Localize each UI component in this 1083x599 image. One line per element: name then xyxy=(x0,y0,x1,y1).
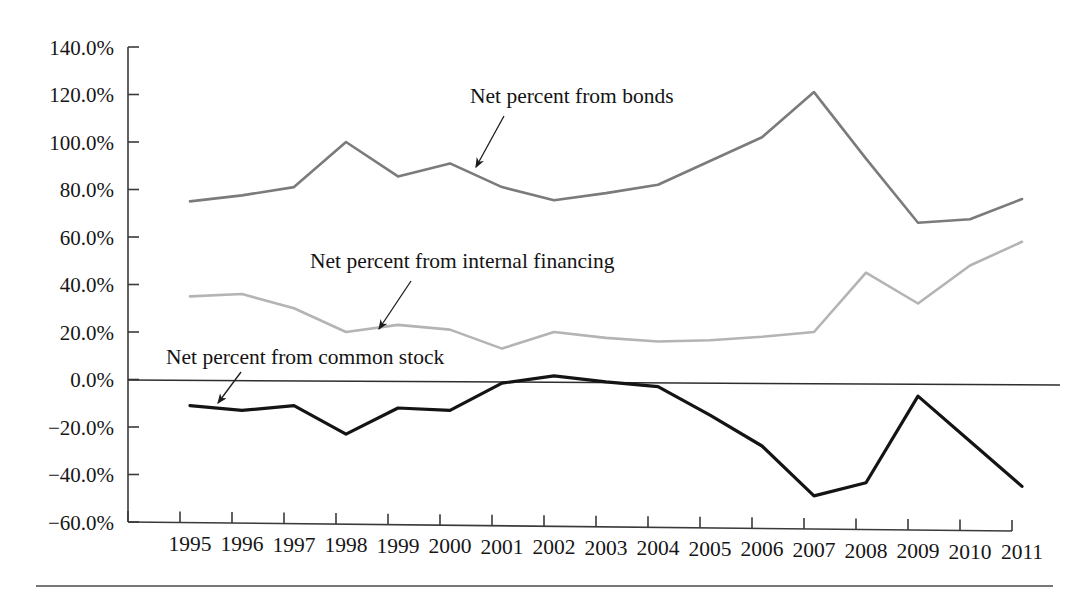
y-tick-label: 80.0% xyxy=(60,178,114,202)
line-chart: 140.0%120.0%100.0%80.0%60.0%40.0%20.0%0.… xyxy=(0,0,1083,599)
x-axis-baseline xyxy=(128,522,1012,531)
x-axis: 1995199619971998199920002001200220032004… xyxy=(128,511,1043,564)
x-tick-label-2002: 2002 xyxy=(533,535,576,559)
y-tick-label: 40.0% xyxy=(60,273,114,297)
annotation-label-2: Net percent from common stock xyxy=(166,345,444,369)
x-tick-label-2004: 2004 xyxy=(637,536,680,560)
x-tick-label-2008: 2008 xyxy=(845,539,888,563)
x-tick-label-2011: 2011 xyxy=(1001,540,1043,564)
y-tick-label: 0.0% xyxy=(70,368,114,392)
annotation-label-1: Net percent from internal financing xyxy=(310,249,615,273)
x-tick-label-1999: 1999 xyxy=(377,534,420,558)
annotation-leader-0 xyxy=(476,116,504,167)
series-lines xyxy=(190,92,1022,496)
annotation-leader-2 xyxy=(218,372,241,403)
y-axis: 140.0%120.0%100.0%80.0%60.0%40.0%20.0%0.… xyxy=(48,36,139,535)
x-tick-label-1998: 1998 xyxy=(325,533,368,557)
y-tick-label: −20.0% xyxy=(48,416,114,440)
x-tick-label-1997: 1997 xyxy=(273,533,316,557)
x-tick-label-2005: 2005 xyxy=(689,537,732,561)
x-tick-label-2010: 2010 xyxy=(949,540,992,564)
x-tick-label-2001: 2001 xyxy=(481,535,524,559)
figure-container: 140.0%120.0%100.0%80.0%60.0%40.0%20.0%0.… xyxy=(0,0,1083,599)
x-tick-label-2003: 2003 xyxy=(585,536,628,560)
series-line-2 xyxy=(190,376,1022,496)
series-line-0 xyxy=(190,92,1022,223)
x-tick-label-1995: 1995 xyxy=(169,532,212,556)
x-tick-label-1996: 1996 xyxy=(221,532,264,556)
y-tick-label: −40.0% xyxy=(48,463,114,487)
y-tick-label: 120.0% xyxy=(49,83,114,107)
y-tick-label: 140.0% xyxy=(49,36,114,60)
y-tick-label: 60.0% xyxy=(60,226,114,250)
annotation-label-0: Net percent from bonds xyxy=(470,84,674,108)
x-tick-label-2000: 2000 xyxy=(429,534,472,558)
x-tick-label-2006: 2006 xyxy=(741,537,784,561)
annotation-leader-1 xyxy=(379,281,411,329)
x-tick-label-2007: 2007 xyxy=(793,538,836,562)
annotations: Net percent from bondsNet percent from i… xyxy=(166,84,674,403)
y-tick-label: −60.0% xyxy=(48,511,114,535)
y-tick-label: 20.0% xyxy=(60,321,114,345)
x-tick-label-2009: 2009 xyxy=(897,539,940,563)
y-tick-label: 100.0% xyxy=(49,131,114,155)
